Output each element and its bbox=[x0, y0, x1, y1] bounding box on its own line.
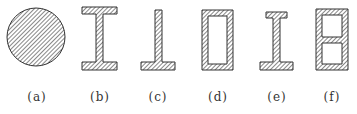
shape-d-box-section bbox=[202, 10, 233, 70]
shape-b-i-section bbox=[82, 7, 117, 70]
label-d: (d) bbox=[208, 90, 228, 104]
label-a: (a) bbox=[27, 90, 47, 104]
label-e: (e) bbox=[267, 90, 286, 104]
shape-c-t-section bbox=[141, 10, 175, 70]
shape-e-i-section-unequal bbox=[260, 12, 293, 70]
shape-f-double-box-section bbox=[316, 9, 348, 70]
shape-a-circle-section bbox=[7, 8, 65, 66]
label-f: (f) bbox=[324, 90, 341, 104]
label-c: (c) bbox=[148, 90, 167, 104]
label-b: (b) bbox=[90, 90, 110, 104]
cross-sections-figure bbox=[0, 0, 357, 114]
